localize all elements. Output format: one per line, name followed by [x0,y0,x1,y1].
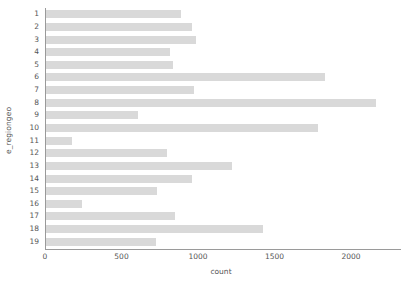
x-axis-tick-labels: 0500100015002000 [0,253,412,265]
bar [45,23,192,31]
y-axis-tick-label: 8 [34,99,39,107]
y-axis-title-label: e_regiongeo [5,106,14,153]
bar [45,10,181,18]
y-axis-title: e_regiongeo [0,0,18,260]
bar [45,238,156,246]
bar-chart: e_regiongeo 1234567891011121314151617181… [0,0,412,289]
y-axis-tick-label: 13 [29,162,39,170]
y-axis-tick-label: 3 [34,36,39,44]
x-axis-tick-label: 500 [114,253,128,261]
y-axis-tick-label: 5 [34,61,39,69]
y-axis-tick-label: 14 [29,175,39,183]
bar [45,99,376,107]
bar [45,48,170,56]
bar [45,187,157,195]
y-axis-tick-label: 1 [34,10,39,18]
y-axis-tick-label: 15 [29,187,39,195]
y-axis-tick-label: 17 [29,212,39,220]
y-axis-tick-label: 12 [29,149,39,157]
bar [45,200,82,208]
bar [45,124,318,132]
x-axis-line [45,249,401,250]
y-axis-tick-label: 2 [34,23,39,31]
bar [45,162,232,170]
y-axis-tick-label: 7 [34,86,39,94]
y-axis-tick-label: 18 [29,225,39,233]
bar [45,137,72,145]
bar [45,36,196,44]
x-axis-tick-label: 1500 [265,253,284,261]
y-axis-tick-label: 9 [34,111,39,119]
x-axis-title-label: count [210,267,231,276]
y-axis-tick-label: 10 [29,124,39,132]
bar [45,73,325,81]
bar [45,212,175,220]
y-axis-tick-label: 11 [29,137,39,145]
bar [45,225,263,233]
y-axis-line [45,8,46,249]
plot-area [45,8,400,248]
bar [45,175,192,183]
y-axis-tick-label: 16 [29,200,39,208]
x-axis-tick-label: 1000 [188,253,207,261]
y-axis-tick-label: 6 [34,73,39,81]
y-axis-tick-label: 19 [29,238,39,246]
y-axis-tick-label: 4 [34,48,39,56]
bar [45,61,173,69]
bar [45,149,167,157]
bar [45,86,194,94]
y-axis-tick-labels: 12345678910111213141516171819 [18,8,42,248]
x-axis-tick-label: 2000 [341,253,360,261]
x-axis-tick-label: 0 [43,253,48,261]
bar [45,111,138,119]
x-axis-title: count [0,267,412,276]
